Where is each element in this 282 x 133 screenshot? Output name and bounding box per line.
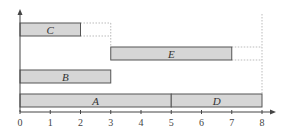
x-tick-label: 2: [78, 117, 83, 128]
task-label-a: A: [91, 95, 99, 107]
x-tick-label: 4: [139, 117, 144, 128]
y-axis-arrow-icon: [18, 9, 23, 15]
gantt-chart: CEBAD012345678: [0, 0, 282, 133]
task-label-c: C: [47, 24, 55, 36]
x-tick-label: 3: [108, 117, 113, 128]
x-tick-label: 8: [260, 117, 265, 128]
task-label-b: B: [62, 71, 69, 83]
x-tick-label: 0: [18, 117, 23, 128]
x-axis-arrow-icon: [270, 110, 276, 115]
x-tick-label: 1: [48, 117, 53, 128]
x-tick-label: 6: [199, 117, 204, 128]
task-label-d: D: [212, 95, 221, 107]
x-tick-label: 5: [169, 117, 174, 128]
x-tick-label: 7: [229, 117, 234, 128]
task-label-e: E: [167, 48, 175, 60]
